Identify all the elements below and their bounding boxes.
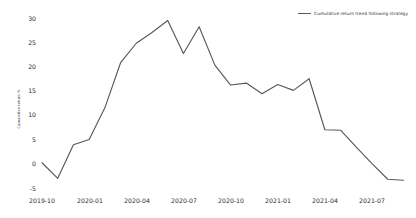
data-line-cumulative-return xyxy=(42,20,403,180)
legend-line-swatch xyxy=(298,13,311,14)
plot-area xyxy=(0,0,416,218)
y-tick-label: 0 xyxy=(2,160,36,167)
y-axis-label: Cumulative return % xyxy=(17,89,21,128)
x-tick-label: 2020-10 xyxy=(218,197,244,204)
x-tick-label: 2021-07 xyxy=(359,197,385,204)
y-tick-label: 5 xyxy=(2,136,36,143)
y-tick-label: -5 xyxy=(2,185,36,192)
legend-label: Cumulative return trend following strate… xyxy=(314,11,408,16)
legend: Cumulative return trend following strate… xyxy=(298,11,408,16)
x-tick-label: 2020-07 xyxy=(171,197,197,204)
x-tick-label: 2020-01 xyxy=(77,197,103,204)
y-tick-label: 25 xyxy=(2,39,36,46)
x-tick-label: 2019-10 xyxy=(29,197,55,204)
x-axis-tick-labels: 2019-10 2020-01 2020-04 2020-07 2020-10 … xyxy=(0,197,416,211)
y-tick-label: 30 xyxy=(2,15,36,22)
y-tick-label: 20 xyxy=(2,63,36,70)
chart-figure: 30 25 20 15 10 5 0 -5 Cumulative return … xyxy=(0,0,416,218)
x-tick-label: 2021-04 xyxy=(312,197,338,204)
x-tick-label: 2020-04 xyxy=(124,197,150,204)
x-tick-label: 2021-01 xyxy=(265,197,291,204)
